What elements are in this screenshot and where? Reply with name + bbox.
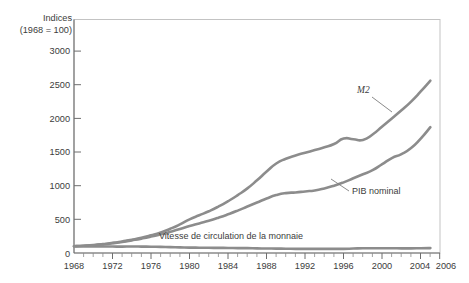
x-tick-label-1968: 1968 <box>64 261 84 271</box>
y-tick-label-500: 500 <box>55 215 70 225</box>
y-tick-label-1000: 1000 <box>50 181 70 191</box>
x-tick-label-1984: 1984 <box>218 261 238 271</box>
plot-frame <box>74 20 440 254</box>
x-tick-label-1992: 1992 <box>295 261 315 271</box>
x-tick-label-1988: 1988 <box>256 261 276 271</box>
x-tick-label-1972: 1972 <box>102 261 122 271</box>
x-tick-label-1996: 1996 <box>333 261 353 271</box>
y-tick-label-2000: 2000 <box>50 114 70 124</box>
x-tick-label-1980: 1980 <box>179 261 199 271</box>
y-axis-title-line2: (1968 = 100) <box>20 25 72 35</box>
series-label-pib-nominal: PIB nominal <box>352 186 401 196</box>
y-tick-label-0: 0 <box>65 249 70 259</box>
y-tick-label-3000: 3000 <box>50 46 70 56</box>
x-tick-label-2004: 2004 <box>410 261 430 271</box>
x-tick-label-2006: 2006 <box>436 261 456 271</box>
chart-figure: Indices (1968 = 100) 3000 2500 2000 1500… <box>0 0 469 283</box>
line-chart-svg: Indices (1968 = 100) 3000 2500 2000 1500… <box>0 0 469 283</box>
x-tick-label-group: 1968 1972 1976 1980 1984 1988 1992 1996 … <box>64 261 456 271</box>
x-tick-label-2000: 2000 <box>372 261 392 271</box>
series-label-velocity: Vitesse de circulation de la monnaie <box>159 231 303 241</box>
y-tick-label-1500: 1500 <box>50 147 70 157</box>
x-minor-tick-group <box>84 253 440 259</box>
y-tick-label-2500: 2500 <box>50 80 70 90</box>
series-label-m2: M2 <box>356 85 370 95</box>
x-tick-label-1976: 1976 <box>141 261 161 271</box>
y-axis-title-line1: Indices <box>43 13 73 23</box>
